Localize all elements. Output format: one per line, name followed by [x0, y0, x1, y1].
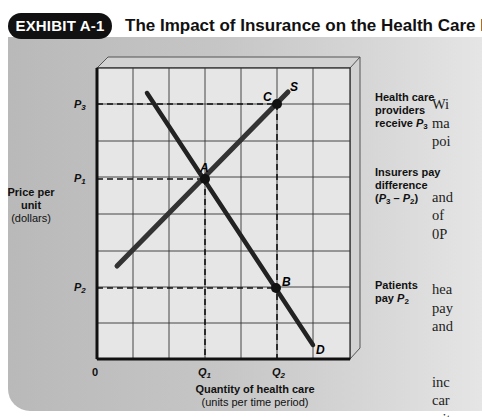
- label-s: S: [290, 80, 298, 94]
- tick-p2: P2: [74, 281, 86, 295]
- tick-p3: P3: [74, 98, 86, 112]
- label-b: B: [282, 275, 291, 289]
- tick-p1: P1: [74, 172, 86, 186]
- insurers-label: Insurers pay difference (P3 – P2): [375, 166, 440, 208]
- point-c: [272, 99, 282, 109]
- x-axis-label: Quantity of health care (units per time …: [150, 383, 360, 409]
- patients-label: Patients pay P2: [375, 279, 418, 308]
- plot-area: [97, 68, 350, 359]
- point-a: [200, 174, 210, 184]
- y-axis-label: Price per unit (dollars): [0, 186, 62, 225]
- tick-q1: Q1: [198, 366, 211, 380]
- label-d: D: [316, 343, 325, 357]
- body-text-column: Wimapoi andof 0P heapayand inccarwit sum…: [432, 58, 456, 417]
- providers-label: Health care providers receive P3: [375, 91, 434, 133]
- chart-plot: A B C S D: [0, 0, 482, 417]
- label-a: A: [199, 161, 209, 175]
- tick-origin: 0: [92, 366, 98, 378]
- label-c: C: [263, 90, 272, 104]
- tick-q2: Q2: [272, 366, 285, 380]
- point-b: [271, 283, 281, 293]
